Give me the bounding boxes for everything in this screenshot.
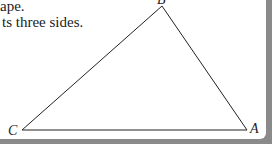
triangle-shape [22, 6, 247, 130]
document-page: ape. ts three sides. B C A [0, 0, 266, 139]
vertex-label-c: C [8, 123, 18, 138]
vertex-label-b: B [157, 0, 166, 7]
vertex-label-a: A [249, 121, 259, 136]
triangle-figure: B C A [0, 0, 272, 144]
